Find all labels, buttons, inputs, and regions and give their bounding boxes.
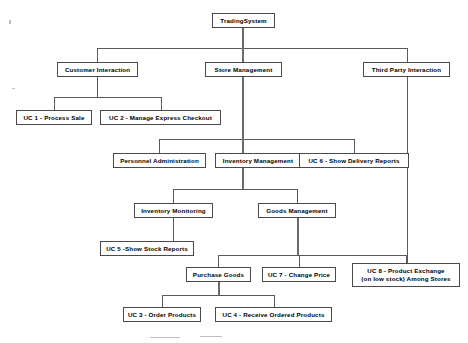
edge-to-uc-3 xyxy=(162,295,163,307)
edge-to-inventory-monitoring xyxy=(173,189,174,203)
edge-trading-system-stem xyxy=(242,28,244,48)
node-inventory-management[interactable]: Inventory Management xyxy=(215,153,301,168)
edge-to-uc-1 xyxy=(54,97,55,110)
node-third-party-interaction[interactable]: Third Party Interaction xyxy=(363,62,450,77)
diagram-canvas: TradingSystem Customer Interaction Store… xyxy=(0,0,468,343)
edge-customer-interaction-trunk xyxy=(54,97,161,98)
edge-purchase-goods-stem xyxy=(218,282,220,295)
edge-to-personnel-administration xyxy=(159,139,160,153)
node-uc-2-manage-express-checkout[interactable]: UC 2 - Manage Express Checkout xyxy=(100,110,221,125)
edge-to-uc-6 xyxy=(354,139,355,153)
scan-speck xyxy=(200,336,222,337)
edge-goods-management-stem xyxy=(297,218,299,255)
edge-to-customer-interaction xyxy=(97,48,98,62)
edge-to-goods-management xyxy=(297,189,298,203)
node-uc-1-process-sale[interactable]: UC 1 - Process Sale xyxy=(16,110,92,125)
node-uc-6-show-delivery-reports[interactable]: UC 6 - Show Delivery Reports xyxy=(299,153,409,168)
edge-to-uc-7 xyxy=(299,255,300,267)
node-uc-7-change-price[interactable]: UC 7 - Change Price xyxy=(262,267,336,282)
edge-to-uc-2 xyxy=(161,97,162,110)
node-customer-interaction[interactable]: Customer Interaction xyxy=(57,62,138,77)
edge-goods-management-trunk xyxy=(218,255,406,256)
edge-store-management-trunk xyxy=(159,139,354,140)
edge-inventory-management-trunk xyxy=(173,189,297,190)
scan-speck xyxy=(9,20,11,24)
node-uc-3-order-products[interactable]: UC 3 - Order Products xyxy=(123,307,201,322)
edge-to-store-management xyxy=(242,48,244,62)
edge-to-purchase-goods xyxy=(218,255,219,267)
edge-to-inventory-management xyxy=(242,139,244,153)
node-store-management[interactable]: Store Management xyxy=(205,62,282,77)
edge-to-uc-8 xyxy=(406,255,407,263)
edge-inventory-monitoring-stem xyxy=(173,218,174,241)
edge-store-management-stem xyxy=(242,77,244,139)
edge-level1-trunk xyxy=(97,48,408,49)
edge-inventory-management-stem xyxy=(242,168,244,189)
node-trading-system[interactable]: TradingSystem xyxy=(212,13,275,28)
node-goods-management[interactable]: Goods Management xyxy=(258,203,336,218)
edge-to-uc-4 xyxy=(274,295,275,307)
edge-third-party-drop xyxy=(407,77,408,263)
node-uc-4-receive-ordered-products[interactable]: UC 4 - Receive Ordered Products xyxy=(215,307,332,322)
edge-purchase-goods-trunk xyxy=(162,295,274,296)
node-inventory-monitoring[interactable]: Inventory Monitoring xyxy=(134,203,213,218)
node-purchase-goods[interactable]: Purchase Goods xyxy=(186,267,251,282)
node-uc-5-show-stock-reports[interactable]: UC 5 -Show Stock Reports xyxy=(100,241,194,256)
edge-to-third-party-interaction xyxy=(407,48,408,62)
edge-customer-interaction-stem xyxy=(97,77,98,97)
scan-speck xyxy=(12,88,15,89)
node-personnel-administration[interactable]: Personnel Administration xyxy=(113,153,206,168)
node-uc-8-product-exchange[interactable]: UC 8 - Product Exchange (on low stock) A… xyxy=(352,263,460,287)
scan-speck xyxy=(150,337,180,338)
